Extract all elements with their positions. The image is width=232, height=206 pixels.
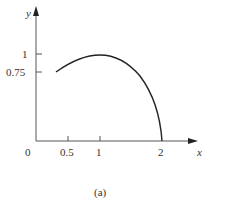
data-curve bbox=[56, 55, 162, 141]
xtick-label-2: 2 bbox=[158, 147, 164, 158]
ytick-label-1: 1 bbox=[22, 49, 28, 60]
xtick-label-1: 1 bbox=[96, 147, 102, 158]
ytick-label-075: 0.75 bbox=[6, 67, 25, 78]
origin-label: 0 bbox=[25, 147, 31, 158]
xtick-label-05: 0.5 bbox=[60, 147, 74, 158]
y-axis-arrow-icon bbox=[33, 6, 39, 16]
x-axis-label: x bbox=[197, 147, 202, 158]
chart-canvas bbox=[0, 0, 232, 206]
x-axis-arrow-icon bbox=[188, 138, 198, 144]
figure-caption: (a) bbox=[94, 187, 106, 198]
y-axis-label: y bbox=[26, 8, 31, 19]
